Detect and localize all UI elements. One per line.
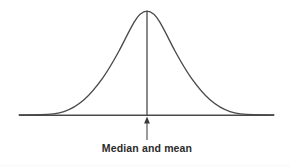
caption-arrow-head <box>144 117 150 124</box>
normal-distribution-figure: Median and mean <box>0 0 290 167</box>
distribution-chart-canvas: Median and mean <box>0 0 290 167</box>
bottom-edge-artifact <box>0 164 290 167</box>
median-and-mean-label: Median and mean <box>102 142 192 154</box>
